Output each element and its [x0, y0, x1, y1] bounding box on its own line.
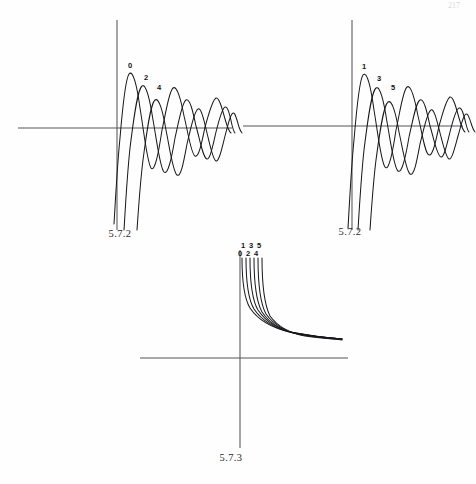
curve-order-5 — [370, 102, 475, 230]
figure-top-right: 1 3 5 — [235, 8, 476, 238]
curve-order-3 — [254, 258, 342, 339]
curve-order-3 — [358, 88, 469, 230]
curve-label-2: 2 — [246, 249, 250, 258]
caption-bottom: 5.7.3 — [196, 452, 266, 463]
curve-label-2: 2 — [144, 73, 148, 82]
curve-order-2 — [124, 86, 235, 230]
curve-label-3: 3 — [377, 74, 381, 83]
curve-order-1 — [246, 258, 342, 339]
figure-top-left: 0 2 4 — [0, 8, 250, 238]
curve-label-4: 4 — [254, 249, 259, 258]
curve-order-4 — [258, 258, 342, 339]
document-page: 217 0 2 4 5.7.2 1 — [0, 0, 476, 484]
curve-label-0: 0 — [238, 249, 242, 258]
curve-order-2 — [250, 258, 342, 339]
curve-label-5: 5 — [391, 83, 395, 92]
curve-label-1: 1 — [362, 62, 366, 71]
curve-order-5 — [262, 258, 342, 340]
curve-order-0 — [114, 73, 231, 224]
curve-label-4: 4 — [157, 83, 162, 92]
curve-label-0: 0 — [128, 61, 132, 70]
figure-bottom: 1 3 5 0 2 4 — [130, 236, 366, 451]
